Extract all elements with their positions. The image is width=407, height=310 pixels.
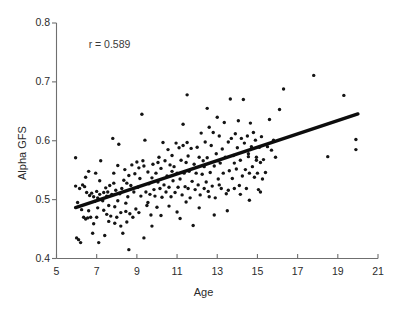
data-point: [188, 196, 191, 199]
data-point: [150, 224, 153, 227]
data-point: [233, 187, 236, 190]
data-point: [80, 208, 83, 211]
data-point: [241, 174, 244, 177]
data-point: [92, 195, 95, 198]
data-point: [168, 163, 171, 166]
data-point: [116, 164, 119, 167]
data-point: [216, 116, 219, 119]
data-point: [354, 138, 357, 141]
data-point: [92, 222, 95, 225]
data-point: [125, 220, 128, 223]
data-point: [76, 201, 79, 204]
data-point: [160, 196, 163, 199]
data-point: [177, 146, 180, 149]
data-point: [74, 156, 77, 159]
data-point: [102, 191, 105, 194]
data-point: [134, 207, 137, 210]
data-point: [181, 144, 184, 147]
data-point: [178, 177, 181, 180]
data-point: [98, 179, 101, 182]
data-point: [354, 148, 357, 151]
data-point: [203, 140, 206, 143]
data-point: [170, 154, 173, 157]
data-point: [222, 171, 225, 174]
data-point: [117, 143, 120, 146]
data-point: [259, 161, 262, 164]
data-point: [114, 189, 117, 192]
data-point: [252, 131, 255, 134]
data-point: [208, 195, 211, 198]
data-point: [184, 200, 187, 203]
data-point: [151, 163, 154, 166]
data-point: [235, 167, 238, 170]
data-point: [186, 187, 189, 190]
data-point: [183, 185, 186, 188]
data-point: [132, 190, 135, 193]
data-point: [155, 206, 158, 209]
data-point: [262, 158, 265, 161]
data-point: [254, 138, 257, 141]
x-tick-label: 9: [123, 265, 151, 277]
data-point: [167, 186, 170, 189]
data-point: [107, 204, 110, 207]
data-point: [156, 161, 159, 164]
data-point: [214, 196, 217, 199]
data-point: [261, 177, 264, 180]
data-point: [248, 199, 251, 202]
data-point: [312, 74, 315, 77]
data-point: [137, 166, 140, 169]
data-point: [213, 213, 216, 216]
data-point: [181, 123, 184, 126]
data-point: [138, 177, 141, 180]
data-point: [242, 98, 245, 101]
data-point: [174, 141, 177, 144]
data-point: [278, 108, 281, 111]
data-point: [123, 168, 126, 171]
data-point: [122, 179, 125, 182]
x-tick-label: 7: [83, 265, 111, 277]
data-point: [211, 184, 214, 187]
data-point: [108, 184, 111, 187]
data-point: [148, 193, 151, 196]
data-point: [234, 132, 237, 135]
data-point: [201, 159, 204, 162]
data-point: [116, 199, 119, 202]
data-point: [209, 171, 212, 174]
data-point: [144, 190, 147, 193]
data-point: [227, 140, 230, 143]
data-point: [228, 169, 231, 172]
data-point: [95, 190, 98, 193]
data-point: [249, 121, 252, 124]
x-tick-label: 17: [284, 265, 312, 277]
data-point: [208, 126, 211, 129]
data-point: [115, 216, 118, 219]
data-point: [112, 181, 115, 184]
y-axis-ticks: [52, 23, 57, 259]
data-point: [113, 221, 116, 224]
data-point: [185, 93, 188, 96]
data-point: [83, 185, 86, 188]
data-point: [179, 158, 182, 161]
data-point: [218, 134, 221, 137]
data-point: [74, 184, 77, 187]
data-point: [161, 141, 164, 144]
data-point: [255, 156, 258, 159]
data-point: [125, 181, 128, 184]
data-point: [95, 216, 98, 219]
data-point: [113, 205, 116, 208]
data-point: [164, 190, 167, 193]
data-point: [130, 163, 133, 166]
data-point: [120, 187, 123, 190]
x-tick-label: 11: [163, 265, 191, 277]
data-point: [231, 177, 234, 180]
data-point: [210, 144, 213, 147]
data-point: [233, 161, 236, 164]
data-point: [189, 147, 192, 150]
data-point: [77, 238, 80, 241]
data-point: [170, 170, 173, 173]
data-point: [135, 160, 138, 163]
data-point: [171, 179, 174, 182]
data-point: [223, 121, 226, 124]
data-point: [256, 171, 259, 174]
data-point: [119, 224, 122, 227]
